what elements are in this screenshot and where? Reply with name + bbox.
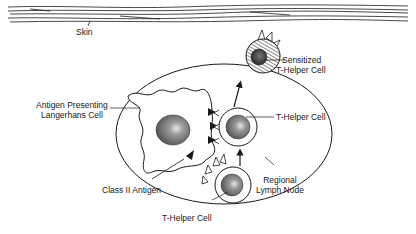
sensitized-t-helper-cell xyxy=(246,30,280,73)
skin-pointer xyxy=(88,21,90,26)
langerhans-nucleus xyxy=(156,115,190,145)
label-regional-lymph-node: Regional Lymph Node xyxy=(256,175,304,195)
label-skin: Skin xyxy=(76,27,93,37)
label-class-ii-antigen: Class II Antigen xyxy=(102,185,161,195)
t-helper-nucleus-middle xyxy=(226,115,250,139)
diagram: Skin Sensitized T-Helper Cell Antigen Pr… xyxy=(0,0,416,234)
skin-layer xyxy=(8,5,408,22)
t-helper-cell-bottom xyxy=(202,154,251,203)
arrow-to-sensitized xyxy=(234,84,240,107)
label-antigen-presenting-cell: Antigen Presenting Langerhans Cell xyxy=(36,100,108,120)
label-t-helper-middle: T-Helper Cell xyxy=(276,112,326,122)
label-t-helper-bottom: T-Helper Cell xyxy=(162,213,212,223)
label-sensitized-t-helper: Sensitized T-Helper Cell xyxy=(282,55,326,75)
